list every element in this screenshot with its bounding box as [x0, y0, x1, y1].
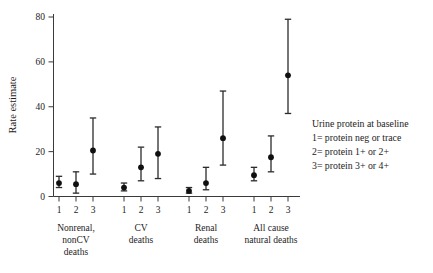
x-tick-label: 1	[57, 205, 62, 215]
x-group-labels: Nonrenal,nonCVdeathsCVdeathsRenaldeathsA…	[57, 223, 298, 257]
legend-entry-2: 2= protein 1+ or 2+	[312, 146, 389, 157]
x-group-label-line: deaths	[64, 247, 89, 257]
x-group-label-line: nonCV	[62, 235, 90, 245]
data-point-marker	[155, 151, 161, 157]
y-tick-label: 80	[36, 12, 46, 22]
x-group-label-line: deaths	[194, 235, 219, 245]
x-tick-label: 3	[286, 205, 291, 215]
x-group-label-line: Renal	[195, 223, 218, 233]
data-point-marker	[186, 188, 192, 194]
y-tick-label: 60	[36, 57, 46, 67]
x-tick-label: 3	[91, 205, 96, 215]
data-point-marker	[203, 180, 209, 186]
x-group-label-line: Nonrenal,	[57, 223, 95, 233]
y-tick-label: 40	[36, 102, 46, 112]
x-tick-label: 2	[139, 205, 144, 215]
x-tick-label: 2	[74, 205, 79, 215]
chart-legend: Urine protein at baseline 1= protein neg…	[312, 118, 409, 171]
x-tick-label: 1	[187, 205, 192, 215]
x-tick-label: 3	[156, 205, 161, 215]
x-tick-label: 2	[269, 205, 274, 215]
y-axis-ticks: 020406080	[36, 12, 54, 202]
data-point-marker	[121, 185, 127, 191]
legend-entry-1: 1= protein neg or trace	[312, 132, 402, 143]
x-tick-label: 3	[221, 205, 226, 215]
x-tick-label: 1	[252, 205, 257, 215]
data-series	[56, 19, 291, 194]
data-point-marker	[73, 181, 79, 187]
data-point-marker	[90, 148, 96, 154]
x-tick-label: 1	[122, 205, 127, 215]
x-group-label-line: deaths	[129, 235, 154, 245]
data-point-marker	[285, 72, 291, 78]
data-point-marker	[138, 164, 144, 170]
chart-page: 020406080 123123123123 Nonrenal,nonCVdea…	[0, 0, 433, 273]
x-axis-ticks: 123123123123	[57, 197, 291, 215]
y-tick-label: 20	[36, 147, 46, 157]
x-group-label-line: All cause	[253, 223, 289, 233]
x-group-label-line: natural deaths	[244, 235, 297, 245]
data-point-marker	[56, 180, 62, 186]
data-point-marker	[220, 135, 226, 141]
legend-title: Urine protein at baseline	[312, 118, 409, 129]
data-point-marker	[251, 172, 257, 178]
chart-axes	[54, 14, 301, 197]
rate-estimate-chart: 020406080 123123123123 Nonrenal,nonCVdea…	[0, 0, 433, 273]
legend-entry-3: 3= protein 3+ or 4+	[312, 160, 389, 171]
y-axis-title: Rate estimate	[7, 76, 18, 133]
data-point-marker	[268, 154, 274, 160]
x-group-label-line: CV	[134, 223, 147, 233]
y-tick-label: 0	[40, 192, 45, 202]
x-tick-label: 2	[204, 205, 209, 215]
